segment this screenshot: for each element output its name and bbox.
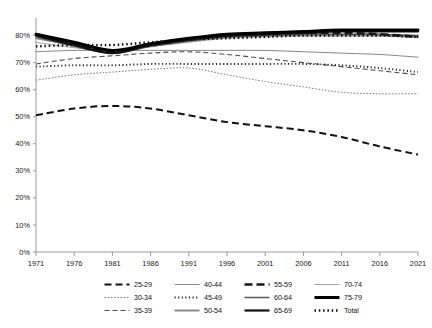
x-tick-label: 1996 xyxy=(219,259,235,268)
y-tick-label: 40% xyxy=(15,139,30,148)
y-tick-label: 60% xyxy=(15,85,30,94)
legend-label: 70-74 xyxy=(344,281,362,288)
legend-item-Total[interactable]: Total xyxy=(314,304,384,317)
legend-swatch-icon xyxy=(244,293,270,302)
series-line-45-49 xyxy=(36,64,418,72)
legend-item-60-64[interactable]: 60-64 xyxy=(244,291,314,304)
legend-swatch-icon xyxy=(104,280,130,289)
y-tick-label: 0% xyxy=(19,248,30,257)
x-tick-label: 2016 xyxy=(372,259,388,268)
legend-item-35-39[interactable]: 35-39 xyxy=(104,304,174,317)
x-tick-label: 2021 xyxy=(410,259,426,268)
legend-label: 25-29 xyxy=(134,281,152,288)
y-tick-label: 10% xyxy=(15,221,30,230)
legend-label: 75-79 xyxy=(344,294,362,301)
legend-item-70-74[interactable]: 70-74 xyxy=(314,278,384,291)
legend-swatch-icon xyxy=(314,306,340,315)
x-tick-label: 1986 xyxy=(142,259,158,268)
legend-item-55-59[interactable]: 55-59 xyxy=(244,278,314,291)
y-tick-label: 30% xyxy=(15,166,30,175)
legend-label: 40-44 xyxy=(204,281,222,288)
legend-swatch-icon xyxy=(104,293,130,302)
x-tick-label: 1981 xyxy=(104,259,120,268)
legend-label: 65-69 xyxy=(274,307,292,314)
legend-swatch-icon xyxy=(174,280,200,289)
legend-label: 30-34 xyxy=(134,294,152,301)
y-tick-label: 70% xyxy=(15,58,30,67)
legend-swatch-icon xyxy=(244,306,270,315)
legend-label: 50-54 xyxy=(204,307,222,314)
legend-swatch-icon xyxy=(104,306,130,315)
line-chart: 0%10%20%30%40%50%60%70%80% 1971197619811… xyxy=(0,0,432,328)
legend-item-65-69[interactable]: 65-69 xyxy=(244,304,314,317)
legend-label: Total xyxy=(344,307,359,314)
y-tick-label: 50% xyxy=(15,112,30,121)
legend-swatch-icon xyxy=(314,293,340,302)
x-axis: 1971197619811986199119962001200620112016… xyxy=(28,252,426,268)
x-tick-label: 1976 xyxy=(66,259,82,268)
legend-item-30-34[interactable]: 30-34 xyxy=(104,291,174,304)
x-tick-label: 2001 xyxy=(257,259,273,268)
series-line-25-29 xyxy=(36,106,418,155)
legend-item-75-79[interactable]: 75-79 xyxy=(314,291,384,304)
legend-swatch-icon xyxy=(314,280,340,289)
legend-label: 60-64 xyxy=(274,294,292,301)
x-tick-label: 1991 xyxy=(181,259,197,268)
y-tick-label: 20% xyxy=(15,193,30,202)
legend-label: 55-59 xyxy=(274,281,292,288)
legend-swatch-icon xyxy=(244,280,270,289)
legend-label: 45-49 xyxy=(204,294,222,301)
chart-legend: 25-2930-3435-3940-4445-4950-5455-5960-64… xyxy=(104,278,384,317)
y-axis: 0%10%20%30%40%50%60%70%80% xyxy=(15,18,36,257)
legend-item-40-44[interactable]: 40-44 xyxy=(174,278,244,291)
x-tick-label: 2006 xyxy=(295,259,311,268)
legend-item-25-29[interactable]: 25-29 xyxy=(104,278,174,291)
series-lines xyxy=(36,30,418,155)
y-tick-label: 80% xyxy=(15,31,30,40)
series-line-30-34 xyxy=(36,68,418,94)
legend-swatch-icon xyxy=(174,293,200,302)
legend-label: 35-39 xyxy=(134,307,152,314)
legend-swatch-icon xyxy=(174,306,200,315)
x-tick-label: 1971 xyxy=(28,259,44,268)
legend-item-45-49[interactable]: 45-49 xyxy=(174,291,244,304)
x-tick-label: 2011 xyxy=(334,259,350,268)
legend-item-50-54[interactable]: 50-54 xyxy=(174,304,244,317)
